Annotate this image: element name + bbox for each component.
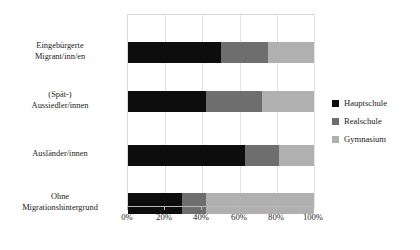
bar-segment-hauptschule xyxy=(128,42,221,63)
bar-segment-realschule xyxy=(221,42,268,63)
legend-swatch-icon xyxy=(332,118,339,125)
category-label-line: (Spät-) xyxy=(0,90,120,101)
bar-segment-hauptschule xyxy=(128,145,245,166)
bar-segment-gymnasium xyxy=(262,91,314,112)
plot-area xyxy=(127,14,315,208)
category-label: EingebürgerteMigrant/inn/en xyxy=(0,41,120,62)
legend-label: Gymnasium xyxy=(344,134,386,144)
x-axis-tick-label: 20% xyxy=(144,211,184,223)
category-label: OhneMigrationshintergrund xyxy=(0,192,120,213)
legend-label: Hauptschule xyxy=(344,98,387,108)
bar-series-container xyxy=(128,15,314,207)
x-axis-tick xyxy=(239,206,240,210)
category-label-line: Migrant/inn/en xyxy=(0,52,120,63)
bar-segment-gymnasium xyxy=(279,145,314,166)
category-label-line: Migrationshintergrund xyxy=(0,203,120,214)
bar-row xyxy=(128,91,314,112)
legend-swatch-icon xyxy=(332,100,339,107)
legend-label: Realschule xyxy=(344,116,382,126)
x-axis-ticks xyxy=(127,206,313,210)
legend-swatch-icon xyxy=(332,136,339,143)
legend-item: Realschule xyxy=(332,113,418,129)
x-axis-tick xyxy=(313,206,314,210)
category-label-line: Ohne xyxy=(0,192,120,203)
bar-segment-realschule xyxy=(206,91,262,112)
bar-segment-gymnasium xyxy=(268,42,315,63)
x-axis-tick xyxy=(276,206,277,210)
legend-item: Gymnasium xyxy=(332,131,418,147)
category-label-line: Aussiedler/innen xyxy=(0,101,120,112)
bar-segment-realschule xyxy=(245,145,278,166)
category-label-line: Ausländer/innen xyxy=(0,149,120,160)
x-axis-tick xyxy=(201,206,202,210)
legend: HauptschuleRealschuleGymnasium xyxy=(332,95,418,149)
gridline xyxy=(314,15,315,207)
x-axis-tick-label: 60% xyxy=(219,211,259,223)
x-axis-tick xyxy=(127,206,128,210)
category-axis-labels: EingebürgerteMigrant/inn/en(Spät-)Aussie… xyxy=(0,14,124,206)
stacked-bar-chart: EingebürgerteMigrant/inn/en(Spät-)Aussie… xyxy=(0,0,420,250)
bar-segment-hauptschule xyxy=(128,91,206,112)
bar-row xyxy=(128,42,314,63)
category-label: (Spät-)Aussiedler/innen xyxy=(0,90,120,111)
x-axis-tick-label: 40% xyxy=(181,211,221,223)
category-label-line: Eingebürgerte xyxy=(0,41,120,52)
x-axis-tick xyxy=(164,206,165,210)
legend-item: Hauptschule xyxy=(332,95,418,111)
x-axis-tick-label: 0% xyxy=(107,211,147,223)
category-label: Ausländer/innen xyxy=(0,149,120,160)
bar-row xyxy=(128,145,314,166)
x-axis-tick-label: 80% xyxy=(256,211,296,223)
x-axis-tick-labels: 0%20%40%60%80%100% xyxy=(127,211,313,225)
x-axis-tick-label: 100% xyxy=(293,211,333,223)
